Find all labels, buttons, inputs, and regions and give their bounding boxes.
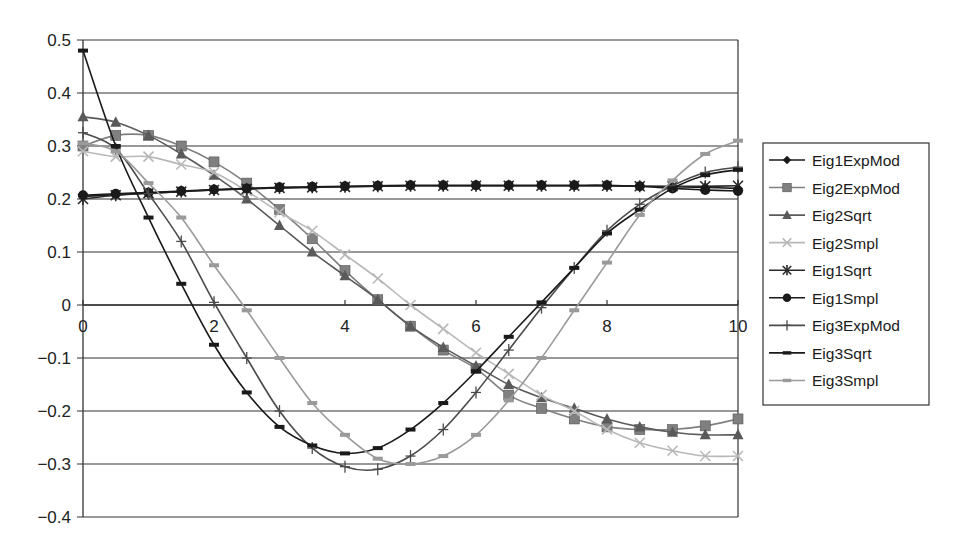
circle-marker-icon	[602, 180, 612, 190]
dash-marker-icon	[340, 433, 350, 437]
circle-marker-icon	[209, 184, 219, 194]
x-marker-icon	[504, 369, 514, 379]
y-tick-label: 0.4	[47, 84, 71, 103]
dash-marker-icon	[307, 443, 317, 447]
triangle-marker-icon	[274, 220, 285, 231]
legend-label: Eig1Smpl	[812, 290, 878, 307]
circle-marker-icon	[78, 190, 88, 200]
dash-marker-icon	[144, 181, 154, 185]
dash-marker-icon	[111, 149, 121, 153]
dash-marker-icon	[733, 168, 743, 172]
circle-marker-icon	[635, 181, 645, 191]
triangle-marker-icon	[307, 246, 318, 257]
circle-marker-icon	[504, 180, 514, 190]
dash-marker-icon	[373, 446, 383, 450]
dash-marker-icon	[307, 401, 317, 405]
dash-marker-icon	[504, 398, 514, 402]
y-tick-label: −0.2	[37, 402, 71, 421]
dash-marker-icon	[668, 186, 678, 190]
dash-marker-icon	[275, 425, 285, 429]
legend-label: Eig2Smpl	[812, 235, 878, 252]
dash-marker-icon	[537, 356, 547, 360]
dash-marker-icon	[373, 457, 383, 461]
triangle-marker-icon	[78, 111, 89, 122]
legend-label: Eig3Smpl	[812, 372, 878, 389]
dash-marker-icon	[783, 351, 792, 354]
dash-marker-icon	[144, 216, 154, 220]
circle-marker-icon	[700, 185, 710, 195]
dash-marker-icon	[537, 300, 547, 304]
y-tick-label: 0.2	[47, 190, 71, 209]
dash-marker-icon	[176, 282, 186, 286]
dash-marker-icon	[406, 428, 416, 432]
dash-marker-icon	[602, 231, 612, 235]
dash-marker-icon	[700, 173, 710, 177]
circle-marker-icon	[733, 186, 743, 196]
x-tick-label: 8	[602, 317, 611, 336]
line-chart: 0.50.40.30.20.10−0.1−0.2−0.3−0.40246810 …	[0, 0, 959, 543]
dash-marker-icon	[569, 266, 579, 270]
y-tick-label: 0.5	[47, 31, 71, 50]
dash-marker-icon	[783, 379, 792, 382]
legend-label: Eig2ExpMod	[812, 180, 900, 197]
legend: Eig1ExpModEig2ExpModEig2SqrtEig2SmplEig1…	[763, 143, 929, 405]
y-tick-label: 0	[62, 296, 71, 315]
y-tick-label: 0.1	[47, 243, 71, 262]
dash-marker-icon	[471, 369, 481, 373]
dash-marker-icon	[209, 343, 219, 347]
x-marker-icon	[471, 348, 481, 358]
square-marker-icon	[537, 403, 547, 413]
dash-marker-icon	[471, 433, 481, 437]
dash-marker-icon	[176, 216, 186, 220]
x-marker-icon	[340, 250, 350, 260]
circle-marker-icon	[373, 181, 383, 191]
circle-marker-icon	[307, 182, 317, 192]
plus-marker-icon	[242, 352, 252, 364]
dash-marker-icon	[242, 308, 252, 312]
circle-marker-icon	[471, 180, 481, 190]
dash-marker-icon	[78, 141, 88, 145]
x-tick-label: 2	[209, 317, 218, 336]
dash-marker-icon	[340, 451, 350, 455]
square-marker-icon	[209, 157, 219, 167]
legend-label: Eig3ExpMod	[812, 317, 900, 334]
chart-container: 0.50.40.30.20.10−0.1−0.2−0.3−0.40246810 …	[0, 0, 959, 543]
y-tick-label: −0.4	[37, 508, 71, 527]
legend-label: Eig1Sqrt	[812, 262, 872, 279]
circle-marker-icon	[783, 294, 792, 303]
plus-marker-icon	[209, 296, 219, 308]
x-tick-label: 0	[78, 317, 87, 336]
circle-marker-icon	[406, 180, 416, 190]
circle-marker-icon	[340, 181, 350, 191]
square-marker-icon	[733, 414, 743, 424]
plus-marker-icon	[340, 461, 350, 473]
circle-marker-icon	[275, 182, 285, 192]
plus-marker-icon	[373, 463, 383, 475]
dash-marker-icon	[406, 462, 416, 466]
dash-marker-icon	[569, 308, 579, 312]
square-marker-icon	[783, 183, 792, 192]
dash-marker-icon	[242, 390, 252, 394]
dash-marker-icon	[209, 263, 219, 267]
circle-marker-icon	[569, 180, 579, 190]
dash-marker-icon	[504, 335, 514, 339]
dash-marker-icon	[438, 401, 448, 405]
dash-marker-icon	[733, 139, 743, 143]
dash-marker-icon	[438, 454, 448, 458]
triangle-marker-icon	[503, 379, 514, 390]
dash-marker-icon	[602, 261, 612, 265]
circle-marker-icon	[537, 180, 547, 190]
dash-marker-icon	[111, 144, 121, 148]
x-tick-label: 6	[471, 317, 480, 336]
dash-marker-icon	[635, 213, 645, 217]
dash-marker-icon	[78, 49, 88, 53]
x-marker-icon	[438, 324, 448, 334]
axes: 0.50.40.30.20.10−0.1−0.2−0.3−0.40246810	[37, 31, 747, 527]
plus-marker-icon	[78, 127, 88, 139]
circle-marker-icon	[438, 180, 448, 190]
plus-marker-icon	[406, 450, 416, 462]
gridlines	[77, 40, 738, 517]
circle-marker-icon	[111, 189, 121, 199]
y-tick-label: 0.3	[47, 137, 71, 156]
x-marker-icon	[635, 438, 645, 448]
